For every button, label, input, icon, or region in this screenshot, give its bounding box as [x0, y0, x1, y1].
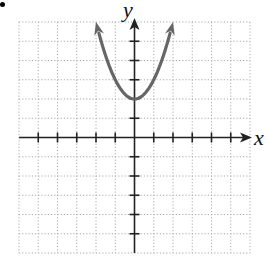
- y-axis-label: y: [121, 0, 133, 22]
- coordinate-plane: x y: [0, 0, 268, 269]
- axes: [19, 18, 252, 253]
- x-axis-label: x: [253, 125, 264, 150]
